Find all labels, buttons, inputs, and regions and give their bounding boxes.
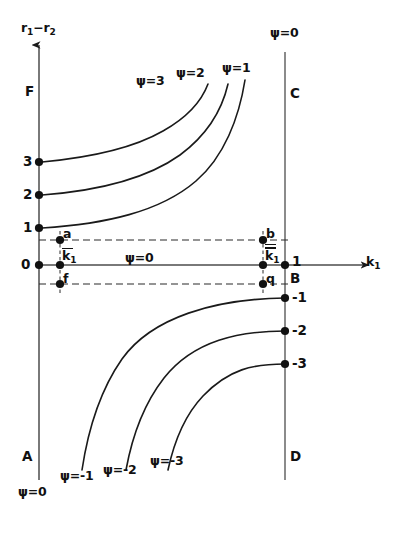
curve-psi-3: [42, 84, 208, 162]
tick-label-1: 1: [23, 221, 32, 235]
dot-origin: [35, 261, 43, 269]
dashed-vertical-ticks: [60, 231, 263, 296]
tick-label-2: 2: [23, 188, 32, 202]
curve-label-psi-0: ψ=0: [125, 252, 154, 265]
label-k1-bar-left: k1: [62, 249, 76, 265]
curve-label-psi-minus-1: ψ=-1: [60, 470, 93, 483]
tick-label-minus-1: -1: [292, 291, 307, 305]
dot-y-minus-1: [281, 294, 289, 302]
corner-label-D: D: [290, 450, 301, 464]
curve-psi-minus-3: [168, 364, 285, 470]
dot-y-3: [35, 158, 43, 166]
x-axis-title: k1: [366, 256, 380, 271]
upper-curves: [42, 80, 245, 228]
dot-y-2: [35, 191, 43, 199]
tick-label-right-one: 1: [292, 255, 301, 269]
corner-label-C: C: [290, 87, 300, 101]
psi-contour-diagram: r1−r2 F A ψ=0 ψ=0 C D k1 3 2 1 0 -1 -2 -…: [0, 0, 397, 543]
tick-label-3: 3: [23, 155, 32, 169]
lower-curves: [82, 298, 285, 470]
curve-label-psi-2: ψ=2: [176, 67, 205, 80]
tick-label-0: 0: [21, 258, 30, 272]
label-k1-doublebar-right: k1: [265, 247, 279, 265]
curve-label-psi-minus-3: ψ=-3: [150, 455, 183, 468]
curve-label-psi-minus-2: ψ=-2: [103, 464, 136, 477]
curve-psi-1: [42, 80, 245, 228]
point-label-b: b: [266, 228, 275, 241]
dashed-construction-lines: [39, 240, 291, 284]
dot-y-1: [35, 224, 43, 232]
dot-y-minus-2: [281, 327, 289, 335]
y-axis-title: r1−r2: [21, 22, 56, 37]
point-label-a: a: [63, 228, 71, 241]
curve-psi-minus-2: [126, 331, 285, 470]
corner-label-A: A: [22, 450, 32, 464]
dot-y-minus-3: [281, 360, 289, 368]
curve-psi-minus-1: [82, 298, 285, 470]
diagram-canvas: [0, 0, 397, 543]
right-line-psi-zero: ψ=0: [270, 27, 299, 40]
corner-label-F: F: [25, 85, 34, 99]
curve-label-psi-3: ψ=3: [136, 75, 165, 88]
corner-label-B: B: [290, 272, 300, 286]
tick-label-minus-2: -2: [292, 324, 307, 338]
curve-label-psi-1: ψ=1: [222, 62, 251, 75]
bottom-left-psi-zero: ψ=0: [18, 486, 47, 499]
dot-point-B: [281, 261, 289, 269]
point-label-q: q: [266, 273, 275, 286]
point-label-f: f: [63, 273, 68, 286]
tick-label-minus-3: -3: [292, 357, 307, 371]
